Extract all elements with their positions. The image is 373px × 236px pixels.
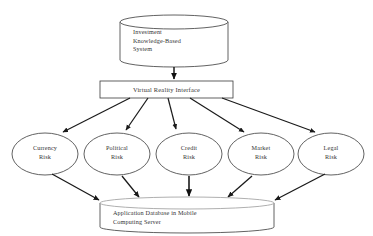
edge-interface-to-currency bbox=[63, 98, 130, 132]
interface-box bbox=[100, 81, 233, 98]
risk-ellipse-currency bbox=[12, 133, 78, 175]
knowledge-base-cylinder bbox=[120, 15, 228, 67]
edge-legal-to-database bbox=[275, 174, 325, 200]
risk-ellipse-market bbox=[228, 133, 294, 175]
edge-political-to-database bbox=[122, 176, 139, 197]
edge-market-to-database bbox=[228, 176, 252, 197]
diagram-canvas: Investment Knowledge-Based System Virtua… bbox=[0, 0, 373, 236]
edge-interface-to-political bbox=[126, 98, 148, 130]
risk-ellipse-legal bbox=[298, 133, 364, 175]
risk-ellipse-credit bbox=[156, 133, 222, 175]
edge-interface-to-credit bbox=[168, 98, 176, 129]
edge-currency-to-database bbox=[52, 174, 99, 200]
diagram-svg bbox=[0, 0, 373, 236]
risk-ellipse-political bbox=[84, 133, 150, 175]
database-cylinder bbox=[100, 197, 274, 233]
